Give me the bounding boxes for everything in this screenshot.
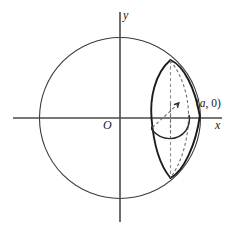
geometry-diagram-svg [0,0,233,235]
cap-left-boundary-arc [151,60,170,178]
figure-container: y x O (a, 0) [0,0,233,235]
origin-label: O [103,119,112,131]
x-axis-label: x [215,119,220,131]
y-axis-label: y [123,9,128,21]
point-a-label: (a, 0) [196,98,221,110]
radius-dashed-line [153,104,179,128]
cap-right-boundary-arc [171,60,200,178]
point-a-rest: , 0) [206,97,221,109]
